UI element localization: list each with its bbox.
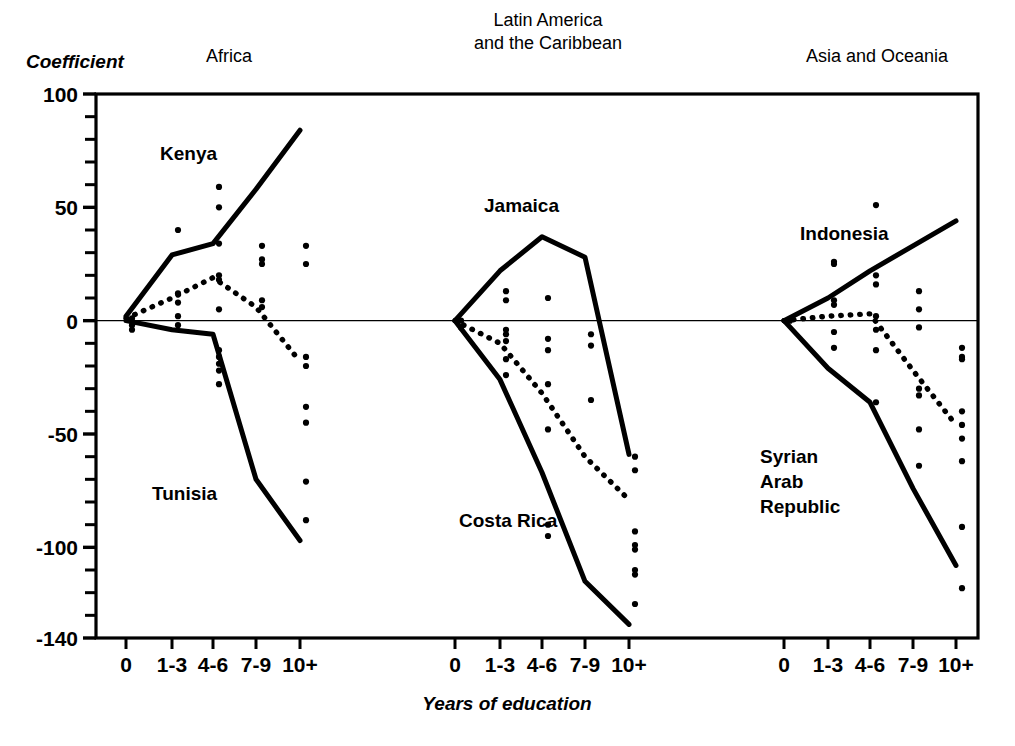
series-line-syrian-arab-republic [784, 321, 956, 566]
scatter-point [216, 306, 222, 312]
scatter-point [545, 347, 551, 353]
country-label-kenya: Kenya [160, 143, 217, 164]
y-tick-label--140: -140 [36, 627, 78, 650]
scatter-point [959, 435, 965, 441]
scatter-point [831, 329, 837, 335]
scatter-point [216, 367, 222, 373]
scatter-point [959, 345, 965, 351]
scatter-point [216, 241, 222, 247]
y-tick-label-50: 50 [55, 196, 78, 219]
scatter-point [873, 347, 879, 353]
scatter-point [632, 547, 638, 553]
panel-titles-group: AfricaLatin Americaand the CaribbeanAsia… [206, 10, 949, 66]
x-tick-label-asia-oceania-10+: 10+ [938, 653, 974, 676]
country-label-syrian-arab-republic: Arab [760, 471, 803, 492]
scatter-point [545, 336, 551, 342]
country-label-jamaica: Jamaica [484, 195, 559, 216]
x-tick-label-asia-oceania-7-9: 7-9 [898, 653, 928, 676]
scatter-point [503, 331, 509, 337]
scatter-point [503, 372, 509, 378]
scatter-point [216, 184, 222, 190]
x-tick-label-africa-10+: 10+ [282, 653, 318, 676]
scatter-point [959, 458, 965, 464]
country-label-syrian-arab-republic: Republic [760, 496, 841, 517]
country-label-costa-rica: Costa Rica [459, 510, 558, 531]
scatter-point [545, 381, 551, 387]
panel-title-latin-america: and the Caribbean [474, 33, 622, 53]
scatter-point [916, 288, 922, 294]
axes-group: 100500-50-100-14001-34-67-910+01-34-67-9… [36, 83, 978, 676]
scatter-point [588, 397, 594, 403]
panel-title-latin-america: Latin America [493, 10, 603, 30]
scatter-point [873, 272, 879, 278]
scatter-point [259, 297, 265, 303]
scatter-point [916, 306, 922, 312]
scatter-point [831, 345, 837, 351]
scatter-point [959, 524, 965, 530]
scatter-point [216, 381, 222, 387]
scatter-point [873, 327, 879, 333]
scatter-point [216, 347, 222, 353]
scatter-point [216, 204, 222, 210]
scatter-point [303, 479, 309, 485]
scatter-point [632, 467, 638, 473]
scatter-point [831, 261, 837, 267]
coefficient-education-chart: AfricaLatin Americaand the CaribbeanAsia… [0, 0, 1015, 746]
scatter-point [129, 315, 135, 321]
chart-figure: AfricaLatin Americaand the CaribbeanAsia… [0, 0, 1015, 746]
scatter-point [959, 356, 965, 362]
scatter-point [503, 297, 509, 303]
y-axis-title: Coefficient [26, 51, 125, 72]
scatter-point [503, 288, 509, 294]
x-tick-label-africa-1-3: 1-3 [157, 653, 187, 676]
scatter-point [916, 426, 922, 432]
y-tick-label--50: -50 [48, 423, 78, 446]
scatter-point [458, 318, 464, 324]
scatter-point [259, 261, 265, 267]
scatter-point [632, 571, 638, 577]
scatter-point [632, 601, 638, 607]
scatter-point [873, 281, 879, 287]
scatter-point [959, 585, 965, 591]
x-axis-title: Years of education [422, 693, 591, 714]
scatter-point [503, 338, 509, 344]
x-tick-label-africa-0: 0 [120, 653, 132, 676]
scatter-point [303, 420, 309, 426]
scatter-point [588, 343, 594, 349]
scatter-point [873, 202, 879, 208]
y-tick-label-100: 100 [43, 83, 78, 106]
series-line-jamaica [455, 237, 629, 455]
scatter-point [303, 243, 309, 249]
scatter-point [959, 408, 965, 414]
scatter-point [916, 463, 922, 469]
scatter-point [175, 322, 181, 328]
scatter-point [458, 324, 464, 330]
scatter-point [588, 331, 594, 337]
panel-title-africa: Africa [206, 46, 253, 66]
x-tick-label-latin-america-0: 0 [449, 653, 461, 676]
scatter-point [175, 290, 181, 296]
scatter-point [787, 318, 793, 324]
country-label-indonesia: Indonesia [800, 223, 889, 244]
country-labels-group: KenyaTunisiaJamaicaCosta RicaIndonesiaSy… [152, 143, 889, 531]
x-tick-label-latin-america-4-6: 4-6 [527, 653, 557, 676]
x-tick-label-latin-america-1-3: 1-3 [485, 653, 515, 676]
series-line-tunisia [126, 321, 300, 541]
scatter-point [175, 227, 181, 233]
series-line-median [126, 278, 300, 362]
scatter-point [216, 354, 222, 360]
panel-title-asia-oceania: Asia and Oceania [806, 46, 949, 66]
scatter-point [545, 533, 551, 539]
x-tick-label-latin-america-7-9: 7-9 [570, 653, 600, 676]
scatter-point [259, 304, 265, 310]
scatter-point [303, 261, 309, 267]
scatter-point [503, 356, 509, 362]
scatter-point [303, 404, 309, 410]
x-tick-label-africa-7-9: 7-9 [241, 653, 271, 676]
plot-frame [96, 94, 978, 638]
x-tick-label-latin-america-10+: 10+ [611, 653, 647, 676]
scatter-point [303, 363, 309, 369]
y-tick-label--100: -100 [36, 536, 78, 559]
scatter-point [873, 313, 879, 319]
country-label-tunisia: Tunisia [152, 483, 218, 504]
